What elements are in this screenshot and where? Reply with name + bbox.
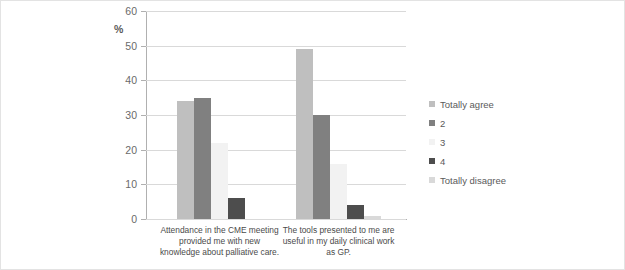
bar-0-0 bbox=[177, 101, 194, 219]
legend-item-2[interactable]: 3 bbox=[429, 134, 589, 150]
bar-0-3 bbox=[228, 198, 245, 219]
legend-label: Totally disagree bbox=[440, 175, 506, 186]
legend-swatch-icon bbox=[429, 101, 435, 107]
y-axis-tick-label: 10 bbox=[109, 179, 137, 189]
legend-item-4[interactable]: Totally disagree bbox=[429, 172, 589, 188]
x-axis-label-0: Attendance in the CME meeting provided m… bbox=[160, 225, 280, 258]
y-axis-title: % bbox=[114, 23, 123, 35]
y-axis-tick-label: 40 bbox=[109, 75, 137, 85]
legend-swatch-icon bbox=[429, 139, 435, 145]
legend-label: 4 bbox=[440, 156, 445, 167]
legend-item-1[interactable]: 2 bbox=[429, 115, 589, 131]
y-axis-tick-label: 20 bbox=[109, 145, 137, 155]
legend-item-0[interactable]: Totally agree bbox=[429, 96, 589, 112]
bar-0-2 bbox=[211, 143, 228, 219]
chart-legend: Totally agree234Totally disagree bbox=[429, 96, 589, 191]
legend-swatch-icon bbox=[429, 177, 435, 183]
bar-1-0 bbox=[296, 49, 313, 219]
legend-swatch-icon bbox=[429, 158, 435, 164]
bar-1-4 bbox=[364, 216, 381, 219]
legend-label: 2 bbox=[440, 118, 445, 129]
plot-area bbox=[146, 11, 406, 219]
bar-group-1 bbox=[296, 11, 381, 219]
legend-item-3[interactable]: 4 bbox=[429, 153, 589, 169]
y-axis-tick-label: 0 bbox=[109, 214, 137, 224]
y-axis-tick-label: 30 bbox=[109, 110, 137, 120]
x-axis-label-1: The tools presented to me are useful in … bbox=[279, 225, 399, 258]
y-axis-tick-label: 50 bbox=[109, 41, 137, 51]
legend-label: Totally agree bbox=[440, 99, 494, 110]
gridline bbox=[146, 219, 406, 220]
chart-figure: % 6050403020100 Attendance in the CME me… bbox=[0, 0, 625, 270]
bar-1-1 bbox=[313, 115, 330, 219]
bar-group-0 bbox=[177, 11, 262, 219]
y-axis-tick-mark bbox=[141, 219, 146, 220]
bar-1-3 bbox=[347, 205, 364, 219]
y-axis-tick-label: 60 bbox=[109, 6, 137, 16]
bar-1-2 bbox=[330, 164, 347, 219]
bar-0-1 bbox=[194, 98, 211, 219]
legend-label: 3 bbox=[440, 137, 445, 148]
legend-swatch-icon bbox=[429, 120, 435, 126]
